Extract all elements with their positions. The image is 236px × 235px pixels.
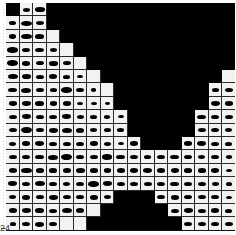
band-blob [130,155,138,159]
grid-cell [114,110,128,123]
grid-cell [195,164,209,177]
band-blob [22,182,30,186]
band-blob [8,74,18,79]
grid-cell [60,150,74,163]
band-blob [211,115,219,119]
grid-cell [6,110,20,123]
band-blob [63,182,70,186]
band-blob [198,128,206,132]
grid-cell [209,177,223,190]
band-blob [117,168,125,173]
band-blob [9,128,17,132]
band-blob [184,168,192,172]
grid-cell [209,124,223,137]
band-blob [22,141,30,146]
grid-cell [20,57,34,70]
grid-cell [33,43,47,56]
grid-cell [222,217,235,230]
band-blob [35,181,45,186]
grid-cell [74,83,88,96]
band-blob [62,114,71,119]
grid-cell [6,204,20,217]
grid-cell [141,177,155,190]
grid-cell [33,164,47,177]
band-blob [104,128,111,132]
band-blob [104,115,110,118]
grid-cell [20,3,34,16]
grid-cell [155,150,169,163]
band-blob [22,48,30,52]
band-blob [7,47,18,52]
grid-cell [74,57,88,70]
grid-cell [33,124,47,137]
band-blob [184,222,192,227]
grid-cell [74,191,88,204]
grid-cell [87,137,101,150]
band-blob [225,222,233,226]
band-blob [9,21,16,25]
band-blob [77,102,83,105]
grid-cell [60,83,74,96]
grid-cell [195,204,209,217]
grid-cell [33,191,47,204]
band-blob [226,196,232,199]
grid-cell [60,57,74,70]
grid-cell [33,70,47,83]
grid-cell [182,137,196,150]
band-blob [226,182,232,185]
band-blob [144,182,152,186]
grid-cell [47,43,61,56]
band-blob [226,169,232,172]
band-blob [48,155,58,160]
grid-cell [87,164,101,177]
band-blob [35,101,44,106]
band-blob [49,142,57,146]
grid-cell [222,177,235,190]
band-blob [21,34,32,39]
grid-cell [168,191,182,204]
band-blob [130,168,138,172]
grid-cell [33,204,47,217]
grid-cell [87,83,101,96]
grid-cell [20,97,34,110]
band-blob [8,88,17,93]
grid-cell [101,97,115,110]
band-blob [198,195,206,199]
band-blob [184,141,192,146]
grid-cell [60,70,74,83]
grid-cell [6,97,20,110]
grid-cell [33,16,47,29]
band-blob [35,141,44,146]
band-blob [198,155,205,159]
band-blob [62,128,72,133]
grid-cell [101,191,115,204]
grid-cell [114,150,128,163]
band-blob [184,208,193,213]
band-blob [105,102,110,105]
band-blob [36,75,44,79]
band-blob [76,88,84,92]
band-blob [63,101,71,106]
band-blob [77,75,83,78]
grid-cell [87,70,101,83]
band-blob [91,102,97,105]
grid-cell [114,177,128,190]
band-blob [36,88,44,92]
band-blob [170,155,179,160]
grid-cell [155,177,169,190]
grid-cell [33,150,47,163]
grid-cell [74,124,88,137]
band-blob [118,115,124,118]
band-blob [49,168,57,172]
grid-cell [209,164,223,177]
band-blob [36,115,44,119]
grid-cell [60,137,74,150]
band-blob [49,61,58,66]
grid-cell [33,97,47,110]
band-blob [197,115,206,120]
grid-cell [47,110,61,123]
grid-cell [47,217,61,230]
grid-cell [47,177,61,190]
band-blob [50,101,57,105]
band-blob [22,74,31,79]
